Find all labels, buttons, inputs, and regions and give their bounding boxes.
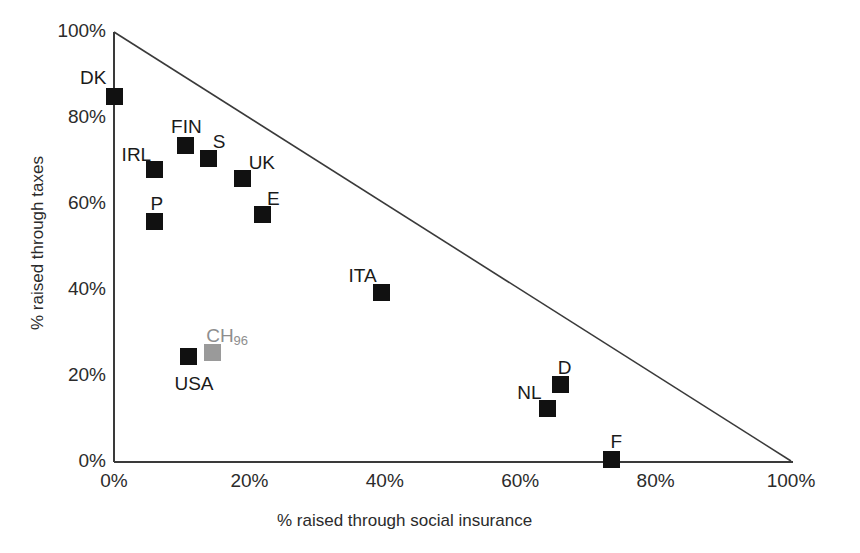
y-tick-label: 0% bbox=[20, 450, 106, 472]
data-point-marker bbox=[177, 137, 194, 154]
data-point-label: CH96 bbox=[206, 325, 248, 348]
x-tick-label: 0% bbox=[74, 470, 154, 492]
x-tick-label: 80% bbox=[616, 470, 696, 492]
x-tick-label: 20% bbox=[209, 470, 289, 492]
data-point-label: P bbox=[151, 193, 164, 215]
data-point-label: E bbox=[267, 188, 280, 210]
y-axis-title: % raised through taxes bbox=[28, 156, 48, 330]
y-tick-label: 100% bbox=[20, 20, 106, 42]
data-point-label: FIN bbox=[171, 116, 202, 138]
data-point-label: DK bbox=[80, 67, 106, 89]
budget-constraint-line bbox=[114, 32, 791, 461]
data-point-label: D bbox=[558, 357, 572, 379]
data-point-label: IRL bbox=[122, 144, 152, 166]
data-point-marker bbox=[146, 213, 163, 230]
data-point-label: S bbox=[213, 131, 226, 153]
data-point-marker bbox=[200, 150, 217, 167]
data-point-marker bbox=[552, 376, 569, 393]
data-point-label: UK bbox=[249, 152, 275, 174]
y-tick-label: 20% bbox=[20, 364, 106, 386]
data-point-label: NL bbox=[517, 382, 541, 404]
x-axis-title: % raised through social insurance bbox=[277, 511, 532, 531]
data-point-label: F bbox=[611, 431, 623, 453]
y-tick-label: 80% bbox=[20, 106, 106, 128]
x-tick-label: 100% bbox=[751, 470, 831, 492]
x-tick-label: 40% bbox=[345, 470, 425, 492]
data-point-marker bbox=[603, 451, 620, 468]
data-point-marker bbox=[106, 88, 123, 105]
data-point-label: ITA bbox=[348, 265, 376, 287]
data-point-label: USA bbox=[174, 373, 213, 395]
scatter-chart: 0%20%40%60%80%100%0%20%40%60%80%100% DKF… bbox=[0, 0, 860, 553]
data-point-marker bbox=[180, 348, 197, 365]
x-tick-label: 60% bbox=[480, 470, 560, 492]
